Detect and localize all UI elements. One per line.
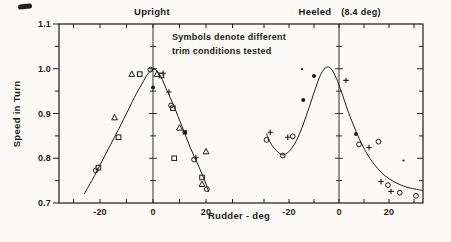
y-tick-label: 0.9 xyxy=(38,109,51,119)
panel-title-upright: Upright xyxy=(134,6,170,17)
x-tick-label: -20 xyxy=(93,207,107,217)
data-points-upright xyxy=(93,67,209,191)
marker-circle-open xyxy=(386,183,391,188)
marker-circle-open xyxy=(357,142,362,147)
fit-curve-upright xyxy=(84,69,209,194)
marker-plus xyxy=(388,189,393,194)
x-tick-label: -20 xyxy=(282,207,296,217)
marker-plus xyxy=(285,135,290,140)
y-tick-label: 0.7 xyxy=(38,198,51,208)
marker-circle-open xyxy=(280,153,285,158)
marker-plus xyxy=(366,145,371,150)
x-tick-label: 0 xyxy=(336,207,341,217)
marker-plus xyxy=(343,78,348,83)
marker-circle-open xyxy=(397,190,402,195)
data-points-heeled xyxy=(264,68,418,198)
marker-circle-open xyxy=(376,139,381,144)
marker-plus xyxy=(160,71,165,76)
fit-curve-heeled xyxy=(267,67,423,191)
marker-circle-filled xyxy=(354,132,358,136)
figure: 1.11.00.90.80.7-20020-20020 Upright Heel… xyxy=(0,0,451,242)
marker-dot xyxy=(402,159,404,161)
y-tick-label: 0.8 xyxy=(38,153,51,163)
annotation-line-1: Symbols denote different xyxy=(172,30,286,44)
y-tick-label: 1.0 xyxy=(38,64,51,74)
y-axis-label: Speed in Turn xyxy=(11,81,22,148)
marker-circle-open xyxy=(264,138,269,143)
marker-square-open xyxy=(137,72,142,77)
x-tick-label: 0 xyxy=(150,207,155,217)
annotation: Symbols denote different trim conditions… xyxy=(172,30,286,58)
annotation-line-2: trim conditions tested xyxy=(172,44,286,58)
marker-circle-open xyxy=(290,134,295,139)
panel-title-heeled: Heeled xyxy=(299,6,332,17)
x-tick-label: 20 xyxy=(384,207,394,217)
marker-triangle-open xyxy=(112,114,118,119)
marker-plus xyxy=(268,130,273,135)
panel-title-heeled-angle: (8.4 deg) xyxy=(341,7,381,17)
marker-dot xyxy=(301,68,303,70)
marker-circle-filled xyxy=(312,74,316,78)
marker-square-filled xyxy=(183,130,187,134)
marker-plus xyxy=(378,179,383,184)
marker-circle-open xyxy=(414,193,419,198)
marker-circle-filled xyxy=(151,86,155,90)
x-axis-label: Rudder - deg xyxy=(208,210,270,221)
marker-square-open xyxy=(116,135,121,140)
y-tick-label: 1.1 xyxy=(38,19,51,29)
marker-triangle-open xyxy=(199,181,205,186)
marker-triangle-open xyxy=(203,148,209,153)
marker-square-open xyxy=(172,156,177,161)
marker-circle-filled xyxy=(301,98,305,102)
marker-triangle-open xyxy=(129,71,135,76)
